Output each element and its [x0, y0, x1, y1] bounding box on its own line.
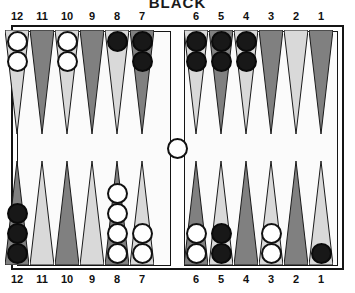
- checker-white[interactable]: [186, 243, 207, 264]
- point-top-9[interactable]: [80, 30, 104, 134]
- backgammon-board: BLACK 121110987654321 121110987654321: [0, 0, 355, 293]
- point-label-bottom-8: 8: [106, 272, 128, 286]
- checker-white[interactable]: [107, 223, 128, 244]
- checker-white[interactable]: [132, 243, 153, 264]
- checker-white[interactable]: [186, 223, 207, 244]
- checker-white[interactable]: [107, 243, 128, 264]
- point-label-bottom-2: 2: [285, 272, 307, 286]
- point-label-top-6: 6: [185, 9, 207, 23]
- bar-checker-stack: [171, 31, 184, 266]
- checker-black[interactable]: [186, 51, 207, 72]
- checker-white[interactable]: [132, 223, 153, 244]
- point-label-top-7: 7: [131, 9, 153, 23]
- checker-black[interactable]: [311, 243, 332, 264]
- checker-black[interactable]: [132, 51, 153, 72]
- point-label-top-12: 12: [6, 9, 28, 23]
- point-label-bottom-10: 10: [56, 272, 78, 286]
- point-label-top-9: 9: [81, 9, 103, 23]
- point-bottom-10[interactable]: [55, 161, 79, 265]
- checker-black[interactable]: [211, 223, 232, 244]
- point-label-bottom-1: 1: [310, 272, 332, 286]
- checker-white[interactable]: [107, 203, 128, 224]
- point-label-bottom-4: 4: [235, 272, 257, 286]
- point-label-top-2: 2: [285, 9, 307, 23]
- point-bottom-9[interactable]: [80, 161, 104, 265]
- point-label-top-4: 4: [235, 9, 257, 23]
- checker-black[interactable]: [236, 31, 257, 52]
- bar-checker-white[interactable]: [167, 138, 188, 159]
- checker-black[interactable]: [7, 203, 28, 224]
- checker-white[interactable]: [57, 51, 78, 72]
- point-top-3[interactable]: [259, 30, 283, 134]
- point-numbers-top: 121110987654321: [0, 9, 355, 23]
- checker-black[interactable]: [7, 223, 28, 244]
- point-bottom-4[interactable]: [234, 161, 258, 265]
- checker-white[interactable]: [57, 31, 78, 52]
- checker-black[interactable]: [211, 31, 232, 52]
- checker-white[interactable]: [7, 51, 28, 72]
- point-top-2[interactable]: [284, 30, 308, 134]
- checker-white[interactable]: [261, 243, 282, 264]
- checker-black[interactable]: [7, 243, 28, 264]
- point-label-top-3: 3: [260, 9, 282, 23]
- point-label-bottom-12: 12: [6, 272, 28, 286]
- page-title: BLACK: [0, 0, 355, 8]
- point-top-11[interactable]: [30, 30, 54, 134]
- point-label-bottom-11: 11: [31, 272, 53, 286]
- point-label-bottom-7: 7: [131, 272, 153, 286]
- checker-white[interactable]: [261, 223, 282, 244]
- point-label-bottom-5: 5: [210, 272, 232, 286]
- checker-black[interactable]: [211, 243, 232, 264]
- board-bar[interactable]: [171, 31, 184, 266]
- point-bottom-2[interactable]: [284, 161, 308, 265]
- checker-white[interactable]: [7, 31, 28, 52]
- point-numbers-bottom: 121110987654321: [0, 272, 355, 286]
- checker-black[interactable]: [132, 31, 153, 52]
- point-label-top-11: 11: [31, 9, 53, 23]
- point-top-1[interactable]: [309, 30, 333, 134]
- point-label-top-10: 10: [56, 9, 78, 23]
- checker-white[interactable]: [107, 183, 128, 204]
- point-label-top-8: 8: [106, 9, 128, 23]
- checker-black[interactable]: [107, 31, 128, 52]
- checker-black[interactable]: [236, 51, 257, 72]
- point-bottom-11[interactable]: [30, 161, 54, 265]
- point-label-bottom-9: 9: [81, 272, 103, 286]
- point-label-bottom-3: 3: [260, 272, 282, 286]
- checker-black[interactable]: [186, 31, 207, 52]
- point-label-top-1: 1: [310, 9, 332, 23]
- point-label-top-5: 5: [210, 9, 232, 23]
- point-label-bottom-6: 6: [185, 272, 207, 286]
- checker-black[interactable]: [211, 51, 232, 72]
